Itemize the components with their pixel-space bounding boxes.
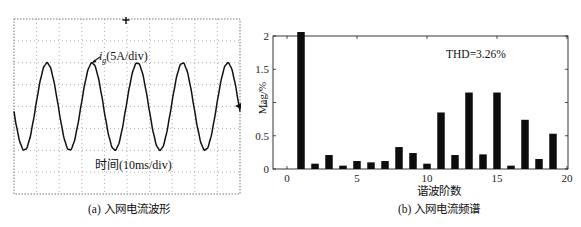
harmonic-bar [451,155,459,169]
harmonic-bar [535,159,543,169]
harmonic-bar [437,112,445,169]
signal-scale: (5A/div) [106,49,147,63]
harmonic-bar [423,164,431,169]
y-tick-label: 0.5 [255,130,269,142]
harmonic-bar [521,120,529,169]
harmonic-bar [479,154,487,169]
harmonic-bar [549,134,557,169]
harmonic-bar [493,93,501,169]
harmonic-bar [353,161,361,169]
x-tick-label: 5 [354,172,360,184]
y-tick-label: 0 [264,163,270,175]
spectrum-panel: 00.511.5205101520 Mag/% THD=3.26% 谐波阶数 (… [250,0,581,227]
harmonic-bar [465,93,473,169]
y-tick-label: 2 [264,30,270,42]
signal-label: ig(5A/div) [99,49,148,65]
x-axis-title: 谐波阶数 [417,182,461,198]
time-scale-label: 时间(10ms/div) [95,155,172,173]
harmonic-bar [507,166,515,169]
caption-b: (b) 入网电流频谱 [398,200,480,216]
thd-annotation: THD=3.26% [446,48,506,60]
harmonic-bar [381,161,389,169]
y-tick-label: 1.5 [255,63,269,75]
trigger-marker-icon [123,17,130,24]
x-tick-label: 15 [492,172,504,184]
harmonic-bar [395,147,403,169]
harmonic-bar [297,32,305,169]
harmonic-bar [325,155,333,169]
spectrum-bar-chart: 00.511.5205101520 [250,0,581,227]
harmonic-bar [311,164,319,169]
caption-a: (a) 入网电流波形 [88,200,170,216]
harmonic-bar [339,166,347,169]
harmonic-bar [409,153,417,169]
harmonic-bar [367,162,375,169]
x-tick-label: 0 [284,172,290,184]
x-tick-label: 20 [562,172,574,184]
waveform-panel: ig(5A/div) 时间(10ms/div) (a) 入网电流波形 [0,0,250,227]
oscilloscope-plot [0,0,250,227]
y-axis-title: Mag/% [256,82,268,114]
